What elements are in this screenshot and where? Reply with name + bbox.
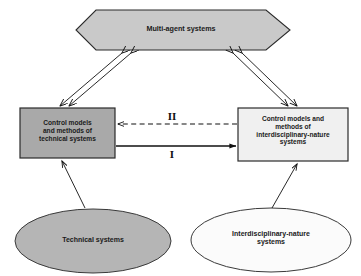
node-box-control-models-interdisciplinary — [238, 108, 348, 161]
node-hexagon-multi-agent-systems — [76, 10, 290, 50]
edge-right-ellipse-right-box — [272, 164, 297, 208]
edge-hexagon-right-box — [233, 53, 297, 106]
edge-left-ellipse-left-box — [62, 161, 85, 208]
node-box-control-models-technical — [20, 108, 115, 158]
node-ellipse-technical-systems — [15, 209, 171, 273]
node-ellipse-interdisciplinary-nature-systems — [191, 208, 351, 272]
diagram-canvas: Multi-agent systems Control models and m… — [0, 0, 361, 276]
edge-hexagon-left-box — [60, 53, 131, 106]
diagram-graphics — [0, 0, 361, 276]
